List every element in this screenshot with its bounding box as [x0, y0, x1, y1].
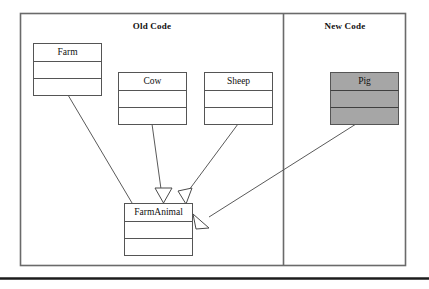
diagram-canvas [0, 0, 429, 289]
class-box-farm-outline [34, 44, 102, 96]
class-box-pig[interactable] [331, 73, 399, 125]
class-box-cow[interactable] [119, 73, 187, 125]
class-box-pig-outline [331, 73, 399, 125]
class-box-cow-outline [119, 73, 187, 125]
uml-class-diagram: Old Code New Code Farm Cow Sheep FarmAni… [0, 0, 429, 289]
class-box-farmanimal-outline [125, 204, 193, 256]
class-box-sheep[interactable] [205, 73, 273, 125]
class-box-sheep-outline [205, 73, 273, 125]
class-box-farmanimal[interactable] [125, 204, 193, 256]
class-box-farm[interactable] [34, 44, 102, 96]
